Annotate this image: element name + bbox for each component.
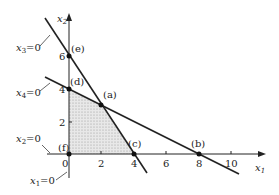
feasible-region [69,89,134,154]
constraint-label-x4: x4=0 [16,87,41,100]
x-tick-0: 0 [62,158,68,169]
y-tick-2: 2 [59,117,65,128]
constraint-arrow-x3 [40,35,50,46]
y-tick-4: 4 [59,84,65,95]
constraint-label-x1: x1=0 [30,175,55,188]
point-label-d: (d) [70,76,84,87]
constraint-arrow-x4 [40,83,50,91]
x-tick-6: 6 [163,158,169,169]
point-label-a: (a) [103,89,117,100]
x2-axis-label: x2 [57,13,68,26]
x-tick-4: 4 [131,158,137,169]
x-tick-2: 2 [98,158,104,169]
constraint-label-x2: x2=0 [16,133,41,146]
x1-axis-label: x1 [255,162,265,175]
constraint-arrow-x2 [42,145,50,153]
x-tick-8: 8 [196,158,202,169]
x1-axis-arrow-icon [258,151,266,157]
constraint-label-x3: x3=0 [16,42,41,55]
point-label-c: (c) [128,138,142,149]
x-tick-10: 10 [225,158,238,169]
point-label-b: (b) [191,138,205,149]
lp-diagram: (a) (b) (c) (d) (e) (f) 0 2 4 6 8 10 2 4… [0,0,279,195]
point-label-e: (e) [71,43,85,54]
y-tick-6: 6 [59,51,65,62]
constraint-arrow-x1 [56,172,67,180]
point-label-f: (f) [58,142,70,153]
